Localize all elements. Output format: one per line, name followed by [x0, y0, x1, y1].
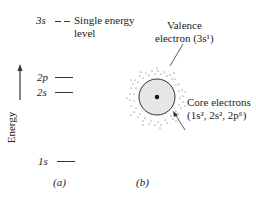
- valence-label-line2: electron (3s¹): [155, 33, 214, 44]
- energy-arrow-icon: [18, 64, 23, 100]
- nucleus-icon: [155, 95, 159, 99]
- core-label-line2: (1s², 2s², 2p⁶): [187, 110, 246, 121]
- core-label-line1: Core electrons: [187, 97, 251, 108]
- panel-b-caption: (b): [136, 177, 149, 188]
- valence-label-line1: Valence: [167, 20, 202, 31]
- energy-axis-label: Energy: [6, 112, 17, 144]
- panel-a-caption: (a): [53, 177, 66, 188]
- valence-pointer: [170, 44, 183, 66]
- core-pointer: [173, 111, 185, 130]
